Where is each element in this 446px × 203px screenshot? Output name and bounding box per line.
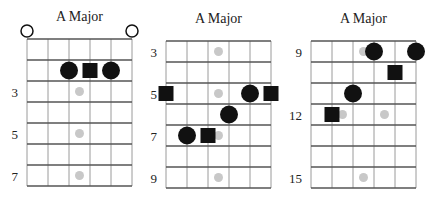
chord-note-circle	[102, 62, 120, 80]
fret-number-label: 3	[151, 45, 158, 60]
fret-number-label: 7	[151, 129, 158, 144]
chord-diagram-3: A Major91215	[289, 11, 425, 188]
fret-number-label: 7	[12, 169, 19, 184]
chord-diagrams: A Major357A Major3579A Major91215	[0, 0, 446, 203]
fret-inlay-dot	[75, 87, 84, 96]
root-note-square	[264, 86, 279, 101]
chord-note-circle	[220, 106, 238, 124]
root-note-square	[201, 128, 216, 143]
root-note-square	[83, 63, 98, 78]
root-note-square	[159, 86, 174, 101]
open-string-marker	[21, 25, 33, 37]
chord-note-circle	[344, 85, 362, 103]
chord-note-circle	[178, 127, 196, 145]
fret-inlay-dot	[359, 173, 368, 182]
chord-note-circle	[407, 43, 425, 61]
root-note-square	[325, 107, 340, 122]
fret-number-label: 5	[151, 87, 158, 102]
fret-number-label: 15	[289, 171, 302, 186]
diagram-title: A Major	[56, 9, 103, 24]
fret-inlay-dot	[75, 129, 84, 138]
fret-number-label: 9	[151, 171, 158, 186]
chord-note-circle	[241, 85, 259, 103]
diagram-title: A Major	[195, 11, 242, 26]
fret-number-label: 5	[12, 127, 19, 142]
fret-inlay-dot	[214, 89, 223, 98]
diagram-title: A Major	[340, 11, 387, 26]
chord-note-circle	[365, 43, 383, 61]
root-note-square	[388, 65, 403, 80]
fret-inlay-dot	[214, 47, 223, 56]
fret-inlay-dot	[214, 173, 223, 182]
fret-inlay-dot	[75, 171, 84, 180]
fret-number-label: 12	[289, 108, 302, 123]
chord-diagram-2: A Major3579	[151, 11, 279, 188]
fret-inlay-dot	[380, 110, 389, 119]
chord-diagram-1: A Major357	[12, 9, 139, 186]
chord-note-circle	[60, 62, 78, 80]
fret-number-label: 3	[12, 85, 19, 100]
fret-number-label: 9	[296, 45, 303, 60]
open-string-marker	[126, 25, 138, 37]
